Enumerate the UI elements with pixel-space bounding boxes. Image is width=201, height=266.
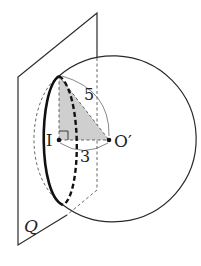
sphere-plane-diagram: 5 3 I O′ Q — [0, 0, 201, 266]
label-5: 5 — [84, 85, 94, 104]
label-o-prime: O′ — [114, 131, 132, 151]
point-i — [57, 138, 62, 143]
label-3: 3 — [80, 147, 90, 166]
label-q: Q — [24, 216, 38, 236]
point-o-prime — [107, 138, 112, 143]
label-i: I — [46, 131, 52, 150]
